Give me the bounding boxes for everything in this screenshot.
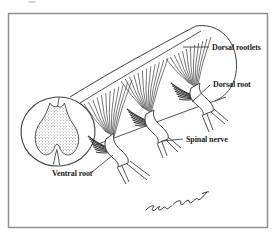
rootlet-line	[112, 87, 119, 136]
label-ventral-root: Ventral root	[52, 169, 93, 178]
nerve-trunk-3	[190, 83, 213, 115]
signature	[146, 192, 209, 211]
spinal-nerve-trunks	[105, 83, 228, 184]
leader-ventral-root	[92, 155, 113, 172]
spinal-cord-cross-section	[18, 93, 99, 169]
rootlet-line	[113, 82, 127, 136]
rootlet-line	[125, 79, 143, 109]
rootlet-line	[196, 41, 203, 87]
rootlet-line	[130, 77, 145, 109]
rootlet-line	[114, 80, 132, 137]
scan-smudge	[28, 1, 36, 3]
label-dorsal-root: Dorsal root	[213, 80, 251, 89]
nerve-trunk-1	[105, 133, 128, 167]
diagram-canvas: Dorsal rootlets Dorsal root Spinal nerve…	[0, 0, 279, 238]
rootlet-line	[197, 37, 211, 88]
cord-cut-end-arc	[196, 26, 237, 101]
nerve-trunk-2	[145, 110, 168, 143]
rootlet-line	[193, 45, 194, 86]
scanned-figure-page: Dorsal rootlets Dorsal root Spinal nerve…	[0, 0, 279, 238]
rootlet-line	[146, 68, 147, 110]
rootlet-line	[174, 55, 190, 84]
rootlet-line	[150, 60, 163, 112]
label-spinal-nerve: Spinal nerve	[186, 135, 228, 144]
rootlet-line	[109, 91, 110, 135]
label-dorsal-rootlets: Dorsal rootlets	[212, 43, 261, 52]
